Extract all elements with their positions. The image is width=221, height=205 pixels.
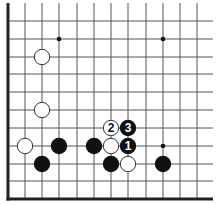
black-stone: 3 xyxy=(120,120,136,136)
white-stone xyxy=(120,156,135,171)
black-stone-icon xyxy=(103,156,119,172)
white-stone xyxy=(34,102,49,117)
white-stone xyxy=(17,138,32,153)
star-point-icon xyxy=(161,144,166,149)
black-stone xyxy=(86,138,102,154)
go-board: 231 xyxy=(0,0,221,205)
black-stone-icon xyxy=(155,156,171,172)
white-stone xyxy=(34,49,49,64)
black-stone-icon xyxy=(34,156,50,172)
move-number-label: 1 xyxy=(125,139,132,153)
black-stone xyxy=(155,156,171,172)
white-stone-icon xyxy=(17,138,32,153)
black-stone-icon xyxy=(51,138,67,154)
white-stone-icon xyxy=(120,156,135,171)
white-stone-icon xyxy=(34,102,49,117)
white-stone xyxy=(103,138,118,153)
black-stone: 1 xyxy=(120,138,136,154)
star-point-icon xyxy=(161,37,166,42)
black-stone-icon xyxy=(86,138,102,154)
move-number-label: 2 xyxy=(108,121,115,135)
white-stone-icon xyxy=(103,138,118,153)
black-stone xyxy=(34,156,50,172)
star-point-icon xyxy=(57,37,62,42)
black-stone xyxy=(51,138,67,154)
black-stone xyxy=(103,156,119,172)
white-stone-icon xyxy=(34,49,49,64)
white-stone: 2 xyxy=(103,120,118,135)
move-number-label: 3 xyxy=(125,121,132,135)
